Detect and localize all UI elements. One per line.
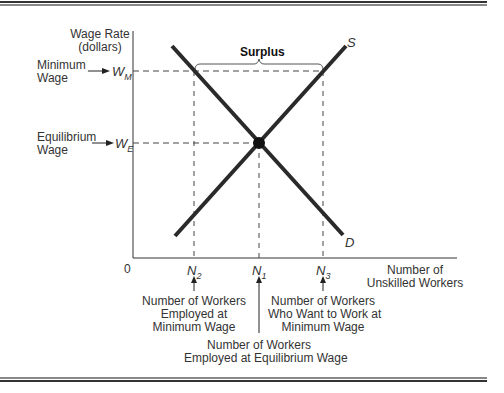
n2-symbol: N2 bbox=[187, 263, 201, 281]
demand-label: D bbox=[345, 235, 354, 250]
surplus-label: Surplus bbox=[240, 46, 285, 59]
wm-symbol: WM bbox=[112, 64, 132, 82]
min-wage-label: MinimumWage bbox=[37, 59, 86, 85]
n3-symbol: N3 bbox=[316, 263, 330, 281]
supply-label: S bbox=[347, 35, 356, 50]
we-symbol: WE bbox=[115, 136, 133, 154]
arrow-wm bbox=[102, 68, 110, 74]
origin-label: 0 bbox=[124, 263, 131, 276]
n3-description: Number of WorkersWho Want to Work atMini… bbox=[268, 295, 378, 334]
y-axis-label: Wage Rate(dollars) bbox=[70, 28, 130, 54]
n1-symbol: N1 bbox=[252, 263, 266, 281]
n2-description: Number of WorkersEmployed atMinimum Wage bbox=[139, 295, 249, 334]
eq-wage-label: EquilibriumWage bbox=[37, 131, 96, 157]
surplus-brace bbox=[195, 59, 323, 70]
arrow-we bbox=[106, 140, 114, 146]
equilibrium-point bbox=[253, 137, 265, 149]
n1-description: Number of WorkersEmployed at Equilibrium… bbox=[184, 339, 334, 365]
x-axis-label: Number ofUnskilled Workers bbox=[365, 264, 465, 290]
